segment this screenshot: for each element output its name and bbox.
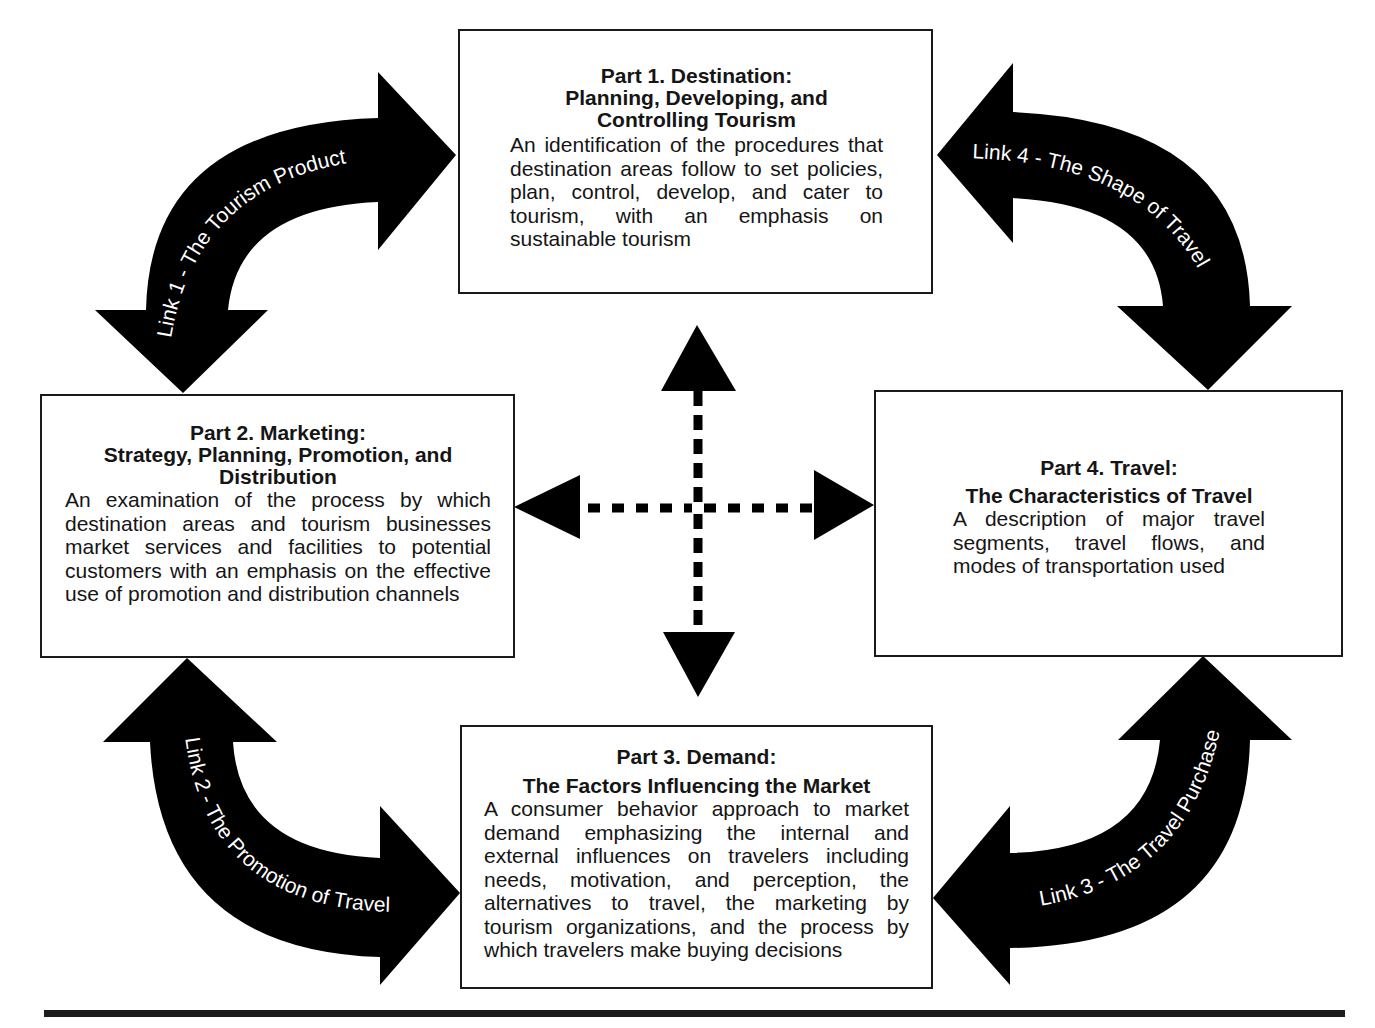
- part2-description: An examination of the process by which d…: [65, 488, 491, 606]
- part2-title: Part 2. Marketing:: [65, 422, 491, 444]
- link3-arrow: Link 3 - The Travel Purchase: [933, 656, 1292, 985]
- part3-title: Part 3. Demand:: [484, 746, 909, 768]
- part3-subtitle: The Factors Influencing the Market: [484, 775, 909, 797]
- link1-arrow: Link 1 - The Tourism Product: [95, 72, 456, 393]
- arrowhead-up-icon: [661, 325, 736, 391]
- link4-arrow-shape: [937, 63, 1292, 390]
- link3-arrow-shape: [933, 656, 1292, 985]
- link2-arrow: Link 2 - The Promotion of Travel: [103, 658, 460, 985]
- part2-subtitle-line2: Distribution: [65, 466, 491, 488]
- part3-description: A consumer behavior approach to market d…: [484, 797, 909, 962]
- part1-subtitle-line2: Controlling Tourism: [510, 109, 883, 131]
- part2-subtitle-line1: Strategy, Planning, Promotion, and: [65, 444, 491, 466]
- part1-description: An identification of the procedures that…: [510, 133, 883, 251]
- part4-travel-box: Part 4. Travel: The Characteristics of T…: [874, 390, 1343, 657]
- part1-destination-box: Part 1. Destination: Planning, Developin…: [458, 29, 933, 294]
- link1-arrow-shape: [95, 72, 456, 393]
- part4-title: Part 4. Travel:: [953, 457, 1265, 479]
- part1-subtitle-line1: Planning, Developing, and: [510, 87, 883, 109]
- link2-arrow-shape: [103, 658, 460, 985]
- bottom-rule-divider: [44, 1010, 1345, 1017]
- part2-marketing-box: Part 2. Marketing: Strategy, Planning, P…: [40, 394, 515, 658]
- arrowhead-left-icon: [514, 475, 580, 539]
- part4-description: A description of major travel segments, …: [953, 507, 1265, 578]
- part1-title: Part 1. Destination:: [510, 65, 883, 87]
- center-dashed-cross: [514, 325, 874, 697]
- part4-subtitle: The Characteristics of Travel: [953, 485, 1265, 507]
- arrowhead-right-icon: [814, 470, 874, 540]
- tourism-system-diagram: Link 1 - The Tourism Product Link 4 - Th…: [0, 0, 1375, 1028]
- arrowhead-down-icon: [663, 632, 735, 697]
- part3-demand-box: Part 3. Demand: The Factors Influencing …: [460, 725, 933, 989]
- link4-arrow: Link 4 - The Shape of Travel: [937, 63, 1292, 390]
